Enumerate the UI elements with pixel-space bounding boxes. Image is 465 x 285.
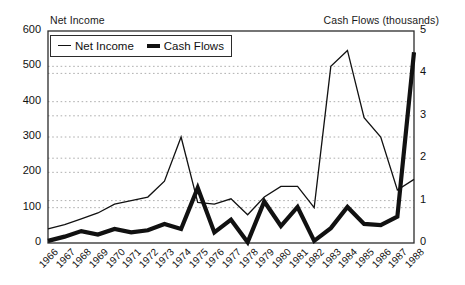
chart-figure: Net Income Cash Flows (thousands) Net In… [0,0,465,285]
right-axis-tick-5: 5 [420,24,426,35]
legend-label-net-income: Net Income [75,40,134,52]
cash-flows-line-swatch [147,44,160,48]
left-axis-tick-500: 500 [23,59,41,70]
left-axis-tick-400: 400 [23,95,41,106]
net-income-line-swatch [58,45,71,46]
legend-item-net-income: Net Income [58,40,134,52]
legend-label-cash-flows: Cash Flows [164,40,224,52]
right-axis-tick-1: 1 [420,194,426,205]
left-axis-tick-0: 0 [35,236,41,247]
right-axis-tick-3: 3 [420,109,426,120]
left-axis-tick-600: 600 [23,24,41,35]
right-axis-tick-0: 0 [420,236,426,247]
legend-item-cash-flows: Cash Flows [147,40,224,52]
left-axis-tick-300: 300 [23,130,41,141]
chart-legend: Net Income Cash Flows [50,35,232,57]
left-axis-tick-100: 100 [23,201,41,212]
right-axis-tick-4: 4 [420,66,426,77]
right-axis-tick-2: 2 [420,151,426,162]
left-axis-tick-200: 200 [23,165,41,176]
